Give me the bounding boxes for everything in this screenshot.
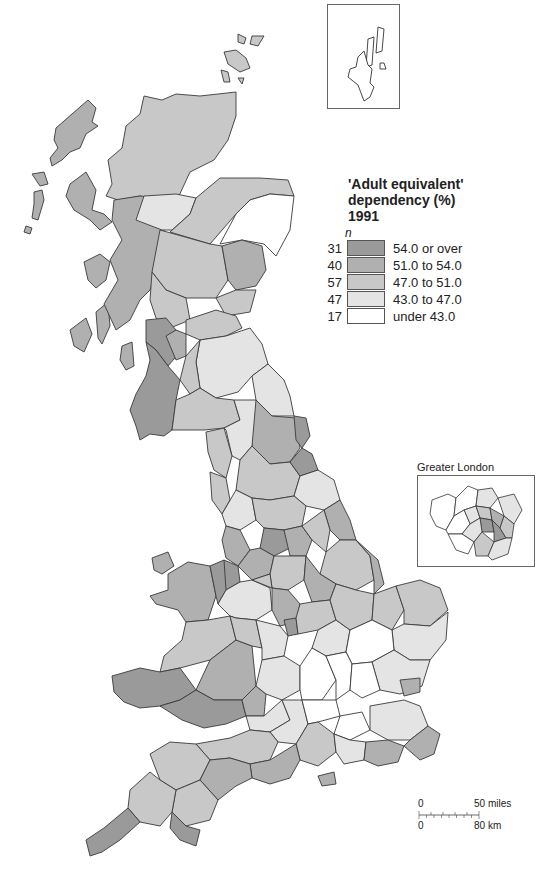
legend-swatch [347,291,385,307]
legend-label: 43.0 to 47.0 [393,292,462,307]
legend-row: 31 54.0 or over [318,240,498,257]
region-west-yorkshire [252,496,306,530]
legend-swatch [347,308,385,324]
scale-km-label: 80 km [474,820,501,831]
legend-swatch [347,257,385,273]
region-arran [120,342,134,370]
legend-row: 57 47.0 to 51.0 [318,274,498,291]
legend-count: 47 [318,292,342,307]
region-islay [70,318,92,352]
region-southend [400,678,420,696]
legend-title-line2: dependency (%) [348,192,498,208]
legend-count: 57 [318,275,342,290]
legend-title-line3: 1991 [348,208,498,224]
london-inset [417,475,535,567]
scale-km-zero: 0 [418,820,424,831]
region-cornwall-west [86,808,140,856]
region-anglesey [152,552,174,574]
shetland-map [328,5,399,108]
orkney-islands [221,34,264,84]
shetland-inset [327,4,400,109]
legend-row: 17 under 43.0 [318,308,498,325]
legend-title-line1: 'Adult equivalent' [348,176,498,192]
map-legend: 'Adult equivalent' dependency (%) 1991 n… [318,176,498,325]
legend-count: 31 [318,241,342,256]
scale-miles-zero: 0 [418,798,424,809]
scale-miles-label: 50 miles [474,798,511,809]
scale-ticks [418,811,480,819]
region-mull [84,254,110,288]
legend-count-header: n [345,226,498,240]
region-skye [66,172,112,230]
choropleth-map [0,0,559,881]
region-sussex-east [364,740,404,766]
legend-swatch [347,240,385,256]
legend-label: 47.0 to 51.0 [393,275,462,290]
legend-swatch [347,274,385,290]
region-angus [222,240,266,290]
legend-label: 54.0 or over [393,241,462,256]
region-isle-of-wight [318,772,336,786]
legend-count: 17 [318,309,342,324]
region-worcester [256,620,288,660]
london-map [418,476,534,566]
region-derbyshire [270,556,306,590]
legend-row: 40 51.0 to 54.0 [318,257,498,274]
london-inset-title: Greater London [417,461,494,473]
legend-label: 51.0 to 54.0 [393,258,462,273]
scale-bar: 0 50 miles 0 80 km [418,798,538,838]
legend-row: 47 43.0 to 47.0 [318,291,498,308]
legend-label: under 43.0 [393,309,455,324]
region-berks [302,700,340,724]
legend-count: 40 [318,258,342,273]
